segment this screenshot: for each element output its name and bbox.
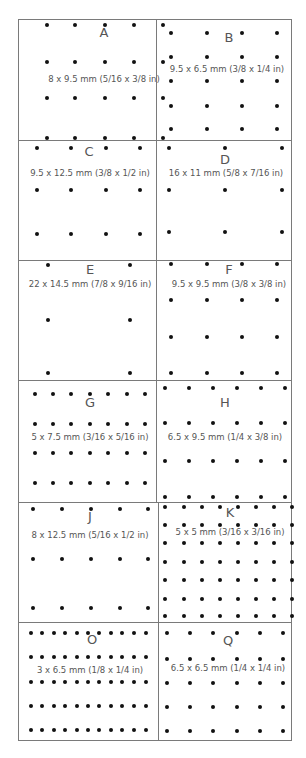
panel-dimensions: 16 x 11 mm (5/8 x 7/16 in): [169, 169, 283, 178]
panel-letter: A: [100, 26, 109, 39]
grid-dot: [35, 232, 39, 236]
grid-dot: [51, 422, 55, 426]
grid-dot: [132, 728, 136, 732]
grid-dot: [31, 606, 35, 610]
grid-dot: [97, 704, 101, 708]
grid-dot: [132, 704, 136, 708]
grid-dot: [240, 298, 244, 302]
grid-dot: [240, 79, 244, 83]
grid-dot: [235, 459, 239, 463]
grid-dot: [211, 657, 215, 661]
panel-f: F 9.5 x 9.5 mm (3/8 x 3/8 in): [156, 260, 292, 380]
grid-dot: [187, 495, 191, 499]
grid-dot: [236, 560, 240, 564]
grid-dot: [211, 421, 215, 425]
grid-dot: [187, 459, 191, 463]
grid-dot: [235, 705, 239, 709]
grid-dot: [169, 335, 173, 339]
panel-letter: H: [220, 396, 230, 409]
grid-dot: [218, 614, 222, 618]
grid-dot: [259, 495, 263, 499]
grid-dot: [205, 55, 209, 59]
grid-dot: [182, 541, 186, 545]
panel-k: K 5 x 5 mm (3/16 x 3/16 in): [158, 502, 292, 622]
grid-dot: [240, 127, 244, 131]
grid-dot: [283, 495, 287, 499]
grid-dot: [75, 631, 79, 635]
grid-dot: [280, 230, 284, 234]
grid-dot: [89, 557, 93, 561]
grid-dot: [275, 371, 279, 375]
grid-dot: [109, 728, 113, 732]
grid-dot: [69, 451, 73, 455]
grid-dot: [275, 335, 279, 339]
grid-dot: [163, 597, 167, 601]
grid-dot: [75, 704, 79, 708]
panel-dimensions: 5 x 7.5 mm (3/16 x 5/16 in): [31, 433, 148, 442]
grid-dot: [240, 262, 244, 266]
grid-dot: [118, 557, 122, 561]
grid-dot: [272, 614, 276, 618]
template-frame: A 8 x 9.5 mm (5/16 x 3/8 in) B 9.5 x 6.5…: [18, 19, 292, 741]
grid-dot: [143, 481, 147, 485]
panel-letter: J: [88, 510, 92, 523]
grid-dot: [29, 655, 33, 659]
grid-dot: [60, 507, 64, 511]
grid-dot: [97, 631, 101, 635]
grid-dot: [29, 680, 33, 684]
grid-dot: [63, 631, 67, 635]
grid-dot: [125, 451, 129, 455]
grid-dot: [165, 681, 169, 685]
grid-dot: [205, 31, 209, 35]
grid-dot: [218, 505, 222, 509]
grid-dot: [258, 657, 262, 661]
grid-dot: [200, 614, 204, 618]
grid-dot: [31, 557, 35, 561]
grid-dot: [143, 451, 147, 455]
grid-dot: [132, 655, 136, 659]
panel-letter: K: [226, 506, 235, 519]
panel-letter: E: [86, 263, 94, 276]
grid-dot: [132, 23, 136, 27]
grid-dot: [73, 23, 77, 27]
grid-dot: [35, 188, 39, 192]
grid-dot: [109, 704, 113, 708]
grid-dot: [211, 705, 215, 709]
grid-dot: [146, 557, 150, 561]
grid-dot: [144, 680, 148, 684]
grid-dot: [169, 55, 173, 59]
grid-dot: [106, 392, 110, 396]
grid-dot: [211, 729, 215, 733]
grid-dot: [109, 631, 113, 635]
grid-dot: [40, 631, 44, 635]
grid-dot: [132, 96, 136, 100]
grid-dot: [125, 392, 129, 396]
grid-dot: [63, 704, 67, 708]
grid-dot: [106, 451, 110, 455]
grid-dot: [218, 597, 222, 601]
grid-dot: [235, 657, 239, 661]
grid-dot: [45, 23, 49, 27]
grid-dot: [33, 422, 37, 426]
grid-dot: [132, 631, 136, 635]
grid-dot: [235, 631, 239, 635]
grid-dot: [60, 606, 64, 610]
grid-dot: [188, 681, 192, 685]
grid-dot: [69, 392, 73, 396]
grid-dot: [240, 31, 244, 35]
panel-letter: B: [225, 31, 234, 44]
grid-dot: [272, 597, 276, 601]
grid-dot: [281, 657, 285, 661]
grid-dot: [236, 614, 240, 618]
grid-dot: [169, 298, 173, 302]
grid-dot: [29, 704, 33, 708]
panel-letter: D: [220, 153, 230, 166]
grid-dot: [52, 655, 56, 659]
panel-letter: G: [85, 396, 95, 409]
grid-dot: [280, 146, 284, 150]
grid-dot: [109, 655, 113, 659]
grid-dot: [188, 631, 192, 635]
grid-dot: [205, 104, 209, 108]
grid-dot: [223, 188, 227, 192]
grid-dot: [275, 262, 279, 266]
